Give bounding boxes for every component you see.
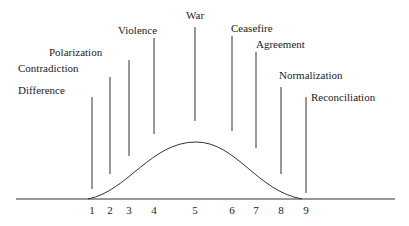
stage-label: Violence [118, 24, 157, 36]
stage-label: Polarization [49, 46, 103, 58]
stage-label: War [186, 9, 204, 21]
stage-number: 9 [303, 204, 309, 216]
conflict-curve-diagram: Difference1Contradiction2Polarization3Vi… [0, 0, 409, 226]
stage-label: Normalization [279, 69, 343, 81]
stage-number: 5 [192, 204, 198, 216]
stage-label: Ceasefire [231, 22, 273, 34]
stage-number: 2 [107, 204, 113, 216]
stage-number: 6 [229, 204, 235, 216]
stage-number: 4 [151, 204, 157, 216]
stage-label: Agreement [256, 38, 305, 50]
stage-number: 8 [278, 204, 284, 216]
stage-label: Contradiction [18, 62, 79, 74]
stage-number: 1 [89, 204, 95, 216]
stage-label: Reconciliation [311, 91, 376, 103]
stage-number: 3 [126, 204, 132, 216]
conflict-intensity-curve [88, 142, 302, 199]
stage-label: Difference [18, 84, 65, 96]
stage-number: 7 [253, 204, 259, 216]
stage-markers: Difference1Contradiction2Polarization3Vi… [18, 9, 376, 216]
